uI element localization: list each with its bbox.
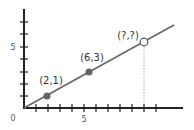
point-label-2-1: (2,1)	[39, 75, 63, 86]
y-tick-label-5: 5	[10, 43, 15, 52]
point-label-unknown: (?,?)	[117, 30, 139, 41]
point-label-6-3: (6,3)	[80, 52, 104, 63]
point-unknown-open	[140, 38, 148, 46]
point-2-1	[43, 92, 50, 99]
x-tick-label-5: 5	[81, 115, 86, 124]
point-6-3	[85, 68, 92, 75]
origin-label: 0	[10, 114, 15, 123]
line-chart: 0 5 5 (2,1) (6,3) (?,?)	[0, 0, 194, 130]
